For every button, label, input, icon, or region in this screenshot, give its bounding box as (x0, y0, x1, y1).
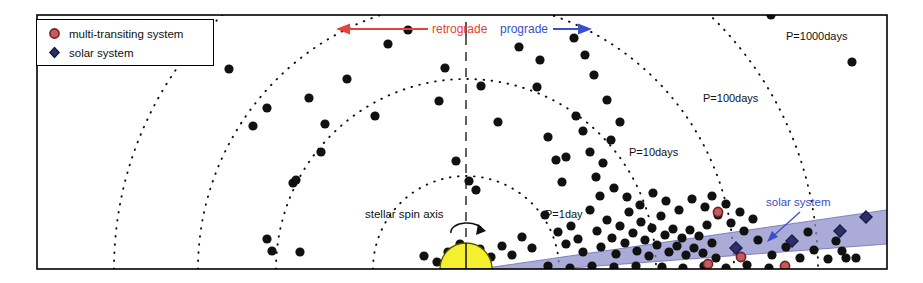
data-point-transiting-planets (707, 191, 716, 200)
data-point-transiting-planets (598, 158, 607, 167)
data-point-transiting-planets (561, 152, 570, 161)
data-point-transiting-planets (809, 245, 818, 254)
data-point-transiting-planets (652, 240, 661, 249)
data-point-transiting-planets (320, 119, 329, 128)
data-point-transiting-planets (553, 227, 562, 236)
data-point-transiting-planets (735, 207, 744, 216)
data-point-transiting-planets (689, 243, 698, 252)
data-point-transiting-planets (316, 147, 325, 156)
data-point-transiting-planets (615, 117, 624, 126)
data-point-transiting-planets (739, 226, 748, 235)
data-point-transiting-planets (514, 42, 523, 51)
data-point-transiting-planets (644, 251, 653, 260)
data-point-transiting-planets (591, 172, 600, 181)
data-point-transiting-planets (262, 234, 271, 243)
data-point-transiting-planets (660, 230, 669, 239)
data-point-transiting-planets (721, 199, 730, 208)
data-point-transiting-planets (451, 156, 460, 165)
data-point-transiting-planets (632, 246, 641, 255)
data-point-transiting-planets (569, 33, 578, 42)
period-label-10days: P=10days (629, 146, 678, 158)
data-point-transiting-planets (602, 215, 611, 224)
data-point-transiting-planets (580, 50, 589, 59)
data-point-transiting-planets (471, 185, 480, 194)
data-point-transiting-planets (383, 39, 392, 48)
data-point-transiting-planets (795, 253, 804, 262)
data-point-transiting-planets (620, 238, 629, 247)
data-point-transiting-planets (664, 247, 673, 256)
data-point-transiting-planets (607, 233, 616, 242)
data-point-transiting-planets (566, 221, 575, 230)
data-point-transiting-planets (596, 242, 605, 251)
period-label-100days: P=100days (703, 92, 758, 104)
data-point-transiting-planets (532, 82, 541, 91)
solar-system-annotation-label: solar system (766, 196, 831, 208)
data-point-transiting-planets (624, 207, 633, 216)
legend-item-multi-transiting: multi-transiting system (43, 24, 207, 43)
data-point-transiting-planets (497, 241, 506, 250)
data-point-transiting-planets (561, 239, 570, 248)
data-point-transiting-planets (803, 227, 812, 236)
data-point-transiting-planets (615, 221, 624, 230)
data-point-multi-transiting-system (736, 252, 745, 261)
data-point-transiting-planets (493, 117, 502, 126)
data-point-transiting-planets (687, 194, 696, 203)
data-point-transiting-planets (674, 205, 683, 214)
legend-label-multi-transiting: multi-transiting system (65, 28, 183, 40)
retrograde-label: retrograde (432, 22, 487, 36)
data-point-transiting-planets (535, 55, 544, 64)
data-point-transiting-planets (628, 228, 637, 237)
data-point-transiting-planets (573, 234, 582, 243)
data-point-transiting-planets (419, 251, 428, 260)
data-point-transiting-planets (585, 205, 594, 214)
data-point-transiting-planets (685, 225, 694, 234)
data-point-transiting-planets (647, 223, 656, 232)
legend-item-solar-system: solar system (43, 43, 207, 62)
data-point-transiting-planets (342, 74, 351, 83)
data-point-transiting-planets (571, 111, 580, 120)
data-point-transiting-planets (434, 96, 443, 105)
data-point-transiting-planets (823, 254, 832, 263)
diamond-marker-blue-icon (43, 46, 65, 59)
data-point-transiting-planets (851, 253, 860, 262)
data-point-transiting-planets (636, 217, 645, 226)
data-point-transiting-planets (224, 64, 233, 73)
data-point-transiting-planets (656, 211, 665, 220)
data-point-transiting-planets (672, 241, 681, 250)
data-point-transiting-planets (707, 238, 716, 247)
data-point-transiting-planets (602, 95, 611, 104)
data-point-transiting-planets (551, 155, 560, 164)
data-point-transiting-planets (589, 70, 598, 79)
data-point-transiting-planets (611, 249, 620, 258)
data-point-transiting-planets (592, 226, 601, 235)
prograde-label: prograde (500, 22, 548, 36)
data-point-transiting-planets (476, 81, 485, 90)
data-point-transiting-planets (578, 247, 587, 256)
figure-root: multi-transiting system solar system ret… (0, 0, 923, 283)
data-point-transiting-planets (291, 175, 300, 184)
data-point-transiting-planets (585, 147, 594, 156)
data-point-transiting-planets (748, 214, 757, 223)
data-point-transiting-planets (753, 235, 762, 244)
data-point-transiting-planets (464, 176, 473, 185)
data-point-transiting-planets (304, 93, 313, 102)
data-point-transiting-planets (267, 246, 276, 255)
data-point-transiting-planets (403, 25, 412, 34)
data-point-multi-transiting-system (713, 207, 722, 216)
data-point-transiting-planets (841, 253, 850, 262)
data-point-transiting-planets (595, 191, 604, 200)
data-point-transiting-planets (668, 224, 677, 233)
data-point-transiting-planets (557, 177, 566, 186)
data-point-transiting-planets (248, 121, 257, 130)
data-point-transiting-planets (440, 63, 449, 72)
data-point-transiting-planets (370, 111, 379, 120)
legend-box: multi-transiting system solar system (36, 19, 214, 66)
data-point-transiting-planets (847, 57, 856, 66)
data-point-transiting-planets (527, 243, 536, 252)
data-point-transiting-planets (295, 247, 304, 256)
data-point-transiting-planets (711, 253, 720, 262)
data-point-transiting-planets (635, 200, 644, 209)
data-point-transiting-planets (726, 218, 735, 227)
data-point-transiting-planets (702, 220, 711, 229)
data-point-transiting-planets (609, 183, 618, 192)
